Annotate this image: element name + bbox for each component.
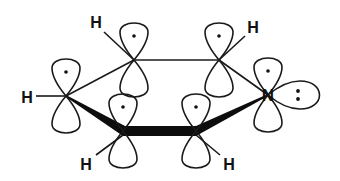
electron-dot-icon bbox=[266, 69, 270, 73]
bond-c2-h bbox=[104, 32, 134, 60]
electron-dot-icon bbox=[194, 105, 198, 109]
hydrogen-label-c6: H bbox=[223, 156, 235, 173]
hydrogen-labels: H H H H H bbox=[21, 14, 259, 173]
pyridine-orbital-diagram: N H H H H H bbox=[0, 0, 340, 181]
bond-c4-c2 bbox=[66, 60, 134, 96]
lone-pair-dot-icon bbox=[296, 89, 300, 93]
orbital-lobe-lower bbox=[205, 60, 233, 97]
lone-pair-dot-icon bbox=[296, 97, 300, 101]
hydrogen-label-c2: H bbox=[90, 14, 102, 31]
orbital-lobe-upper bbox=[205, 23, 233, 60]
hydrogen-label-c3: H bbox=[247, 19, 259, 36]
electron-dot-icon bbox=[121, 105, 125, 109]
ring-bonds bbox=[66, 60, 268, 136]
nitrogen-label: N bbox=[262, 86, 274, 105]
electron-dot-icon bbox=[132, 34, 136, 38]
orbital-lobe-lower bbox=[109, 131, 137, 168]
hydrogen-label-c4: H bbox=[21, 89, 33, 106]
electron-dot-icon bbox=[64, 70, 68, 74]
orbital-lobe-upper bbox=[120, 23, 148, 60]
orbital-lobe-lower bbox=[182, 131, 210, 168]
wedge-bond-c5-c6 bbox=[122, 126, 197, 136]
hydrogen-label-c5: H bbox=[80, 156, 92, 173]
electron-dot-icon bbox=[217, 34, 221, 38]
bond-c3-n1 bbox=[219, 60, 268, 95]
wedge-bond-c4-c5 bbox=[66, 95, 125, 136]
